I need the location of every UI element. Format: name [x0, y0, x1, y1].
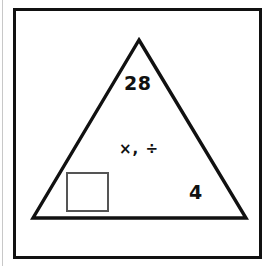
operations-label: ×, ÷ [119, 142, 159, 157]
diagram-canvas: 28 ×, ÷ 4 [0, 0, 269, 266]
triangle-shape [0, 0, 269, 266]
bottom-number-label: 4 [189, 183, 202, 202]
answer-input-box[interactable] [66, 172, 109, 212]
top-number-label: 28 [124, 74, 151, 93]
